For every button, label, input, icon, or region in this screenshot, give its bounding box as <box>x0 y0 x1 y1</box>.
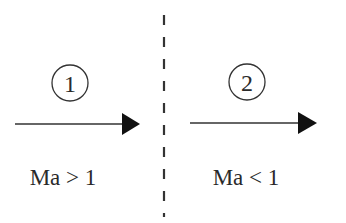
normal-shock-diagram: 1 Ma > 1 2 Ma < 1 <box>0 0 346 223</box>
region-1: 1 Ma > 1 <box>15 65 140 190</box>
region-1-mach-condition: Ma > 1 <box>30 165 97 190</box>
region-1-arrowhead-icon <box>122 113 140 135</box>
region-2-mach-condition: Ma < 1 <box>213 165 280 190</box>
region-2-marker-label: 2 <box>241 70 253 96</box>
region-2-arrowhead-icon <box>298 112 317 134</box>
region-2: 2 Ma < 1 <box>190 64 317 190</box>
region-1-marker-label: 1 <box>64 71 76 97</box>
